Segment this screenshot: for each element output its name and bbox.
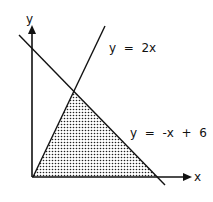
x-axis-arrow-icon — [183, 173, 192, 181]
y-axis-arrow-icon — [28, 25, 36, 34]
x-axis-label: x — [194, 171, 201, 183]
graph-canvas — [0, 0, 213, 202]
graph-diagram: y x y = 2x y = -x + 6 — [0, 0, 213, 202]
line-label-y-neg-x-plus-6: y = -x + 6 — [130, 127, 207, 139]
y-axis-label: y — [26, 13, 33, 25]
line-label-y-2x: y = 2x — [109, 42, 156, 54]
